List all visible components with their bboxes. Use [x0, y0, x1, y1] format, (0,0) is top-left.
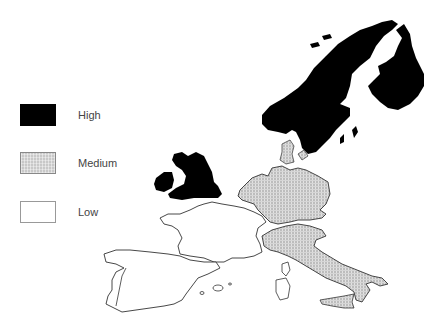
- island-gotland: [352, 126, 358, 138]
- legend-label-medium: Medium: [78, 157, 117, 169]
- legend-swatch-medium: [20, 152, 56, 174]
- island-oland: [340, 134, 344, 144]
- country-denmark: [280, 140, 294, 164]
- country-france: [160, 202, 266, 262]
- island-sardinia: [276, 278, 290, 300]
- island-sicily: [320, 294, 354, 308]
- island-menorca: [229, 283, 232, 285]
- country-ireland: [154, 172, 174, 192]
- legend-item-high: High: [20, 104, 101, 126]
- island-lofoten: [310, 42, 320, 48]
- legend-label-high: High: [78, 109, 101, 121]
- legend-swatch-low: [20, 201, 56, 223]
- legend-swatch-high: [20, 104, 56, 126]
- island-mallorca: [213, 285, 223, 291]
- legend-item-low: Low: [20, 201, 98, 223]
- country-united-kingdom: [168, 152, 222, 200]
- legend-label-low: Low: [78, 206, 98, 218]
- island-svalbard-frag: [322, 34, 332, 40]
- legend-item-medium: Medium: [20, 152, 117, 174]
- island-corsica: [282, 262, 290, 276]
- island-ibiza: [200, 292, 204, 295]
